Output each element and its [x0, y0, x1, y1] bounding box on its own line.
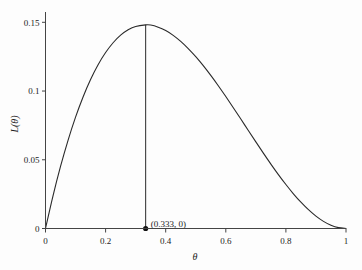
y-tick-label-0: 0 — [35, 224, 40, 234]
y-tick-label-0.05: 0.05 — [24, 155, 40, 165]
y-axis-title: L(θ) — [9, 115, 21, 134]
y-tick-label-0.1: 0.1 — [28, 86, 39, 96]
likelihood-function-chart: (0.333, 0) 00.050.10.15 00.20.40.60.81 θ… — [0, 0, 362, 270]
axes-group — [42, 12, 346, 233]
chart-canvas: (0.333, 0) 00.050.10.15 00.20.40.60.81 θ… — [0, 0, 362, 270]
annotation-group: (0.333, 0) — [143, 25, 186, 231]
x-axis-title: θ — [193, 251, 198, 262]
x-tick-labels: 00.20.40.60.81 — [43, 236, 348, 246]
likelihood-curve — [46, 25, 347, 229]
x-tick-label-0.6: 0.6 — [220, 236, 232, 246]
x-tick-label-0.4: 0.4 — [160, 236, 172, 246]
x-tick-label-0.2: 0.2 — [100, 236, 111, 246]
x-tick-label-0: 0 — [43, 236, 48, 246]
y-tick-labels: 00.050.10.15 — [24, 18, 40, 234]
plot-curve-group — [46, 25, 347, 229]
y-tick-label-0.15: 0.15 — [24, 18, 40, 28]
mle-annotation-label: (0.333, 0) — [151, 219, 186, 229]
x-tick-label-1: 1 — [344, 236, 349, 246]
x-tick-marks — [46, 229, 347, 233]
y-tick-marks — [42, 22, 46, 228]
x-tick-label-0.8: 0.8 — [280, 236, 292, 246]
